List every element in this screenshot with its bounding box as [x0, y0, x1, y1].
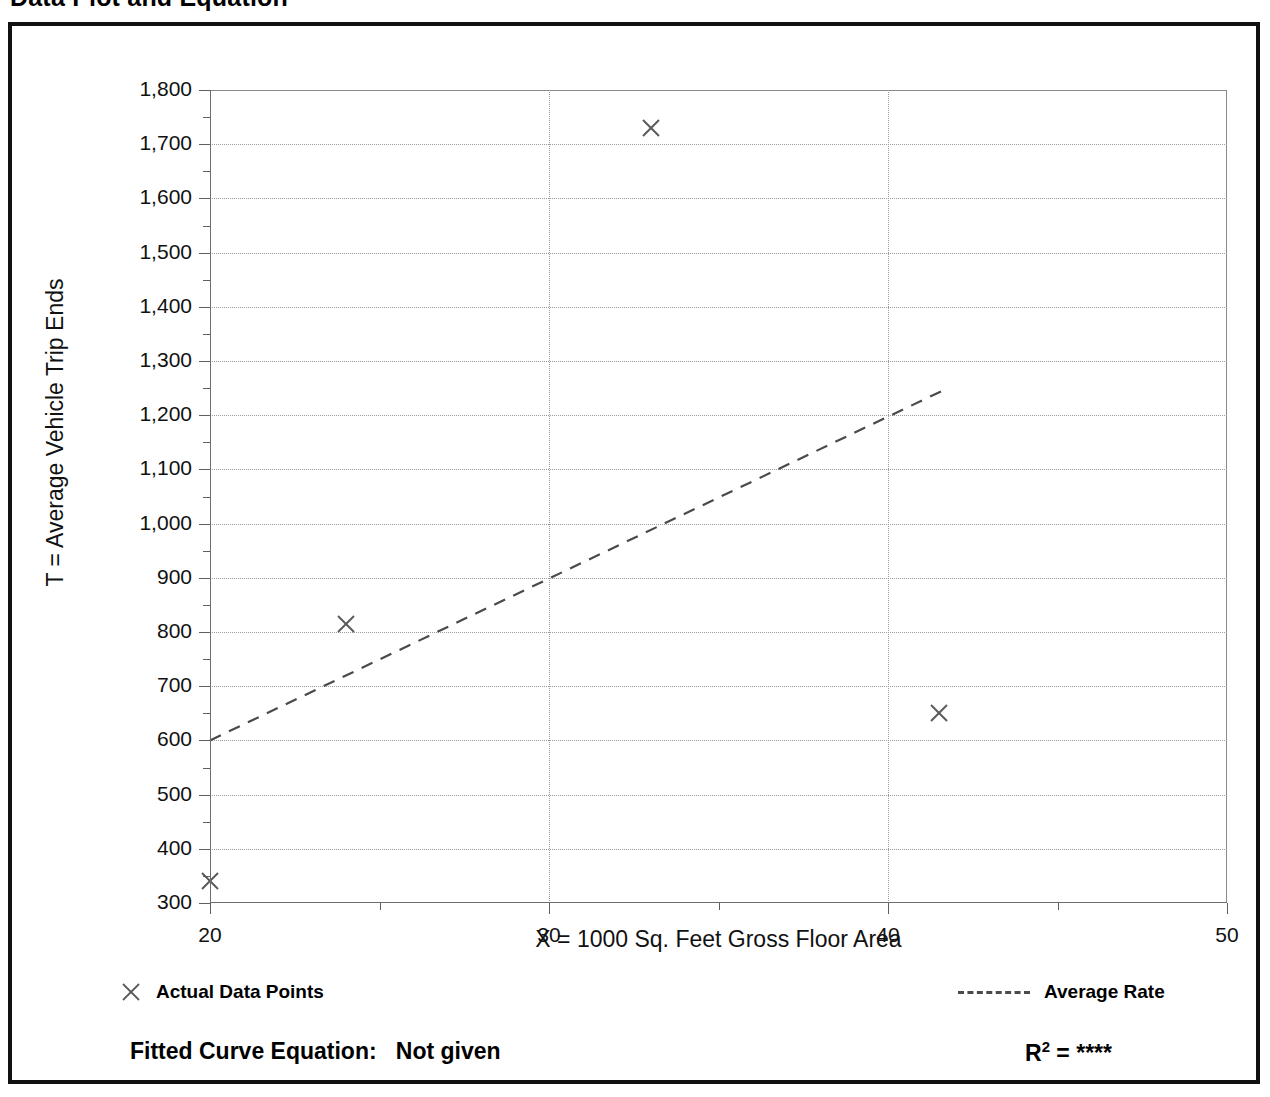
dashed-line-icon: [958, 991, 1030, 994]
y-tick-minor: [203, 605, 210, 606]
equation-row: Fitted Curve Equation: Not given R2 = **…: [20, 1038, 1270, 1088]
chart-legend: Actual Data Points Average Rate: [20, 981, 1270, 1041]
y-tick-major: [199, 144, 210, 145]
y-tick-label: 1,600: [120, 185, 192, 209]
x-tick-major: [210, 903, 211, 914]
x-tick-major: [888, 903, 889, 914]
y-tick-minor: [203, 334, 210, 335]
y-tick-major: [199, 524, 210, 525]
y-tick-major: [199, 686, 210, 687]
gridline-horizontal: [210, 469, 1227, 470]
y-tick-minor: [203, 226, 210, 227]
gridline-horizontal: [210, 632, 1227, 633]
legend-item-actual-data-points: Actual Data Points: [120, 981, 324, 1003]
y-tick-minor: [203, 442, 210, 443]
x-tick-minor: [719, 903, 720, 910]
x-tick-major: [1227, 903, 1228, 914]
data-point-marker: [928, 702, 950, 724]
gridline-horizontal: [210, 415, 1227, 416]
y-tick-major: [199, 632, 210, 633]
y-tick-major: [199, 795, 210, 796]
r-squared: R2 = ****: [1025, 1038, 1112, 1067]
y-tick-minor: [203, 117, 210, 118]
y-tick-label: 900: [120, 565, 192, 589]
y-tick-major: [199, 849, 210, 850]
fitted-curve-label: Fitted Curve Equation:: [130, 1038, 377, 1064]
y-tick-label: 1,800: [120, 77, 192, 101]
gridline-horizontal: [210, 849, 1227, 850]
x-tick-label: 20: [170, 923, 250, 947]
y-tick-label: 300: [120, 890, 192, 914]
y-tick-label: 500: [120, 782, 192, 806]
x-tick-minor: [1058, 903, 1059, 910]
y-tick-label: 1,500: [120, 240, 192, 264]
x-marker-icon: [120, 981, 142, 1003]
y-tick-major: [199, 740, 210, 741]
gridline-horizontal: [210, 578, 1227, 579]
y-tick-major: [199, 253, 210, 254]
gridline-horizontal: [210, 144, 1227, 145]
y-tick-major: [199, 307, 210, 308]
y-axis-title: T = Average Vehicle Trip Ends: [36, 26, 76, 839]
y-tick-major: [199, 90, 210, 91]
y-tick-label: 600: [120, 727, 192, 751]
y-tick-minor: [203, 551, 210, 552]
figure-frame: T = Average Vehicle Trip Ends X = 1000 S…: [8, 22, 1260, 1084]
y-tick-major: [199, 903, 210, 904]
y-tick-major: [199, 361, 210, 362]
r-squared-value: ****: [1076, 1040, 1112, 1066]
y-tick-label: 800: [120, 619, 192, 643]
plot-right-border: [1226, 90, 1227, 903]
gridline-vertical: [888, 90, 889, 903]
r-squared-exponent: 2: [1042, 1038, 1050, 1055]
plot-top-border: [210, 90, 1227, 91]
gridline-horizontal: [210, 524, 1227, 525]
y-tick-label: 700: [120, 673, 192, 697]
plot-background: [210, 90, 1227, 903]
gridline-horizontal: [210, 307, 1227, 308]
r-squared-label: R: [1025, 1040, 1042, 1066]
y-tick-minor: [203, 388, 210, 389]
y-tick-label: 1,300: [120, 348, 192, 372]
y-axis-title-text: T = Average Vehicle Trip Ends: [43, 279, 70, 587]
gridline-horizontal: [210, 740, 1227, 741]
x-axis-title: X = 1000 Sq. Feet Gross Floor Area: [210, 926, 1227, 953]
gridline-horizontal: [210, 795, 1227, 796]
y-tick-label: 1,000: [120, 511, 192, 535]
y-tick-minor: [203, 497, 210, 498]
y-tick-label: 1,200: [120, 402, 192, 426]
legend-label-average-rate: Average Rate: [1044, 981, 1165, 1003]
y-tick-major: [199, 578, 210, 579]
data-point-marker: [335, 613, 357, 635]
plot-area: 3004005006007008009001,0001,1001,2001,30…: [210, 90, 1227, 903]
y-tick-minor: [203, 171, 210, 172]
y-tick-minor: [203, 280, 210, 281]
gridline-horizontal: [210, 253, 1227, 254]
y-tick-label: 1,400: [120, 294, 192, 318]
y-tick-major: [199, 469, 210, 470]
page-title: Data Plot and Equation: [10, 0, 288, 12]
y-tick-label: 1,100: [120, 456, 192, 480]
x-tick-major: [549, 903, 550, 914]
y-tick-minor: [203, 659, 210, 660]
gridline-horizontal: [210, 198, 1227, 199]
x-tick-minor: [380, 903, 381, 910]
x-tick-label: 40: [848, 923, 928, 947]
gridline-horizontal: [210, 361, 1227, 362]
y-tick-label: 1,700: [120, 131, 192, 155]
gridline-vertical: [549, 90, 550, 903]
x-tick-label: 30: [509, 923, 589, 947]
y-tick-major: [199, 415, 210, 416]
figure-page: Data Plot and Equation T = Average Vehic…: [0, 0, 1270, 1097]
fitted-curve-value: Not given: [396, 1038, 501, 1064]
x-axis-line: [210, 902, 1227, 903]
fitted-curve-equation: Fitted Curve Equation: Not given: [130, 1038, 501, 1065]
y-tick-major: [199, 198, 210, 199]
y-tick-minor: [203, 822, 210, 823]
data-point-marker: [640, 117, 662, 139]
x-tick-label: 50: [1187, 923, 1267, 947]
y-tick-label: 400: [120, 836, 192, 860]
gridline-horizontal: [210, 686, 1227, 687]
legend-label-actual-data-points: Actual Data Points: [156, 981, 324, 1003]
r-squared-equals: =: [1056, 1040, 1069, 1066]
